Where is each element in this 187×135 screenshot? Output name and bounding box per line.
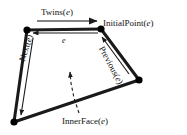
diagram-graphic — [0, 0, 187, 135]
label-edge-e: e — [62, 37, 66, 45]
label-inner-face: InnerFace(e) — [62, 117, 108, 126]
label-initial-point: InitialPoint(e) — [103, 19, 154, 28]
arrow-innerface — [70, 72, 79, 113]
vertex-bottom-left — [10, 118, 17, 125]
edge-top — [27, 29, 101, 30]
figure-canvas: Twins(e) InitialPoint(e) e Next(e) Previ… — [0, 0, 187, 135]
vertex-right — [135, 76, 142, 83]
label-twins: Twins(e) — [41, 8, 73, 17]
